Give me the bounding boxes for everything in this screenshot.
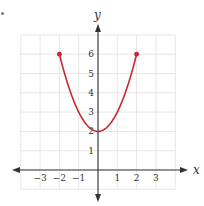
y-tick-label: 4 bbox=[88, 88, 94, 98]
y-arrow-up-icon bbox=[95, 24, 101, 32]
y-axis-label: y bbox=[93, 8, 101, 22]
y-arrow-down-icon bbox=[95, 194, 101, 202]
x-tick-label: 2 bbox=[134, 173, 140, 183]
y-tick-label: 3 bbox=[88, 107, 94, 117]
y-tick-label: 6 bbox=[88, 49, 94, 59]
y-tick-label: 5 bbox=[88, 69, 94, 79]
x-arrow-left-icon bbox=[12, 167, 20, 173]
x-tick-label: −3 bbox=[33, 173, 47, 183]
x-tick-label: 1 bbox=[114, 173, 120, 183]
y-tick-label: 1 bbox=[88, 146, 94, 156]
x-tick-label: −2 bbox=[53, 173, 66, 183]
tick-labels: −3−2−1123123456 bbox=[33, 49, 159, 183]
endpoint-dot bbox=[134, 52, 139, 57]
x-axis-label: x bbox=[193, 163, 200, 177]
parabola-chart: −3−2−1123123456 x y bbox=[0, 0, 204, 206]
x-arrow-right-icon bbox=[180, 167, 188, 173]
x-tick-label: −1 bbox=[72, 173, 85, 183]
endpoint-dot bbox=[57, 52, 62, 57]
x-tick-label: 3 bbox=[153, 173, 159, 183]
